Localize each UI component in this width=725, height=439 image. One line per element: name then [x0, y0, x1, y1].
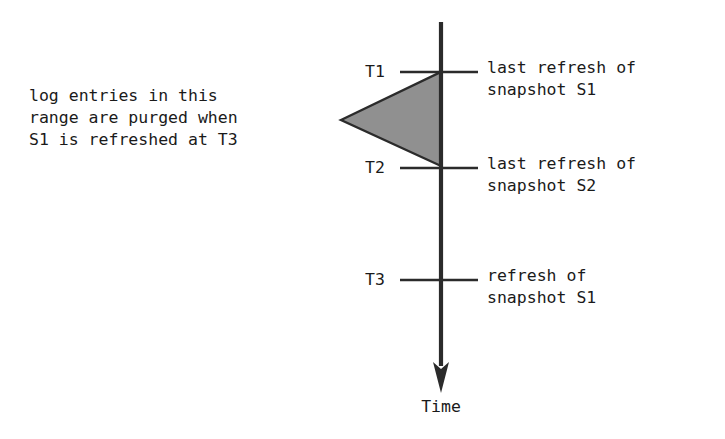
event-label-t3-line-1: refresh of [487, 266, 586, 285]
time-axis-caption: Time [405, 396, 477, 418]
event-label-t1: last refresh of snapshot S1 [487, 57, 636, 101]
event-label-t3-line-2: snapshot S1 [487, 288, 596, 307]
purge-annotation-line-1: log entries in this [29, 86, 218, 105]
purge-annotation-line-3: S1 is refreshed at T3 [29, 130, 238, 149]
event-label-t2: last refresh of snapshot S2 [487, 153, 636, 197]
event-label-t1-line-1: last refresh of [487, 58, 636, 77]
event-label-t1-line-2: snapshot S1 [487, 80, 596, 99]
event-label-t2-line-1: last refresh of [487, 154, 636, 173]
time-axis-arrowhead [433, 362, 449, 393]
diagram-canvas: log entries in this range are purged whe… [0, 0, 725, 439]
event-label-t2-line-2: snapshot S2 [487, 176, 596, 195]
time-label-t3: T3 [365, 269, 385, 291]
time-label-t2: T2 [365, 157, 385, 179]
purge-annotation-text: log entries in this range are purged whe… [29, 85, 359, 151]
time-label-t1: T1 [365, 61, 385, 83]
purge-annotation-line-2: range are purged when [29, 108, 238, 127]
event-label-t3: refresh of snapshot S1 [487, 265, 596, 309]
